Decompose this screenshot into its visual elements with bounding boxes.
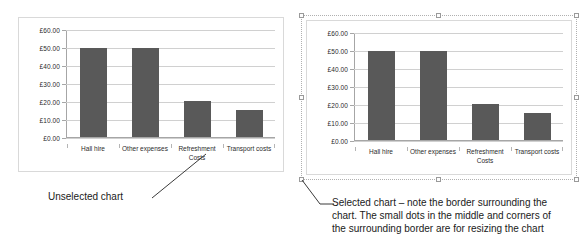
x-axis-labels-unselected: Hall hireOther expensesRefreshment Costs… [67,144,275,162]
y-axis-tick [350,123,354,124]
y-axis-tick [62,138,66,139]
resize-handle-bottom-middle[interactable] [436,177,441,182]
y-axis-label: £50.00 [40,44,60,51]
bar-slot [407,33,459,140]
bar-series-selected [355,33,563,140]
y-axis-label: £40.00 [40,62,60,69]
x-axis-tick [171,144,172,148]
x-axis-tick [511,147,512,151]
bar[interactable] [472,104,499,140]
x-axis-label: Other expenses [407,147,459,165]
y-axis-tick [350,69,354,70]
resize-handle-top-left[interactable] [299,13,304,18]
x-axis-tick [459,147,460,151]
x-axis-label: Transport costs [223,144,275,162]
resize-handle-top-right[interactable] [574,13,579,18]
y-axis-label: £0.00 [331,138,348,145]
x-axis-label: Refreshment Costs [459,147,511,165]
y-axis-tick [62,30,66,31]
y-axis-tick [350,33,354,34]
y-axis-label: £10.00 [328,120,348,127]
y-axis-tick [62,102,66,103]
y-axis-label: £30.00 [328,84,348,91]
y-axis-label: £0.00 [43,135,60,142]
bar[interactable] [132,48,159,137]
bar[interactable] [368,51,395,140]
caption-selected-line-1: Selected chart – note the border surroun… [332,196,584,209]
resize-handle-bottom-left[interactable] [299,177,304,182]
y-axis-label: £10.00 [40,117,60,124]
bar-series-unselected [67,30,275,137]
x-axis-tick [274,144,275,148]
caption-selected: Selected chart – note the border surroun… [332,196,584,235]
x-axis-tick [223,144,224,148]
y-axis-label: £40.00 [328,65,348,72]
y-axis-tick [62,120,66,121]
y-axis-tick [62,66,66,67]
x-axis-label: Hall hire [67,144,119,162]
y-axis-label: £20.00 [328,101,348,108]
bar-slot [511,33,563,140]
y-axis-label: £60.00 [328,30,348,37]
x-axis-tick [355,147,356,151]
resize-handle-middle-right[interactable] [574,95,579,100]
x-axis-label: Transport costs [511,147,563,165]
bar[interactable] [420,51,447,140]
bar-slot [119,30,171,137]
caption-selected-line-3: the surrounding border are for resizing … [332,222,584,235]
bar-slot [459,33,511,140]
caption-selected-line-2: chart. The small dots in the middle and … [332,209,584,222]
x-axis-tick [562,147,563,151]
y-axis-tick [350,105,354,106]
caption-unselected: Unselected chart [48,190,123,203]
gridline [66,138,275,139]
y-axis-label: £60.00 [40,27,60,34]
x-axis-tick [407,147,408,151]
selected-chart-panel[interactable]: £0.00£10.00£20.00£30.00£40.00£50.00£60.0… [306,20,572,175]
x-axis-tick [119,144,120,148]
y-axis-label: £30.00 [40,81,60,88]
x-axis-label: Other expenses [119,144,171,162]
resize-handle-bottom-right[interactable] [574,177,579,182]
y-axis-tick [350,141,354,142]
bar-slot [355,33,407,140]
y-axis-tick [350,87,354,88]
bar[interactable] [236,110,263,137]
leader-line-selected [300,178,336,212]
bar[interactable] [524,113,551,140]
y-axis-tick [62,48,66,49]
x-axis-labels-selected: Hall hireOther expensesRefreshment Costs… [355,147,563,165]
y-axis-label: £50.00 [328,47,348,54]
plot-area-unselected: £0.00£10.00£20.00£30.00£40.00£50.00£60.0… [66,30,275,138]
resize-handle-top-middle[interactable] [436,13,441,18]
y-axis-label: £20.00 [40,98,60,105]
gridline [354,141,563,142]
plot-area-selected: £0.00£10.00£20.00£30.00£40.00£50.00£60.0… [354,33,563,141]
bar-slot [171,30,223,137]
resize-handle-middle-left[interactable] [299,95,304,100]
unselected-chart-panel[interactable]: £0.00£10.00£20.00£30.00£40.00£50.00£60.0… [18,17,284,172]
x-axis-label: Refreshment Costs [171,144,223,162]
y-axis-tick [350,51,354,52]
bar-slot [223,30,275,137]
x-axis-tick [67,144,68,148]
bar-slot [67,30,119,137]
bar[interactable] [80,48,107,137]
y-axis-tick [62,84,66,85]
x-axis-label: Hall hire [355,147,407,165]
bar[interactable] [184,101,211,137]
caption-unselected-text: Unselected chart [48,191,123,202]
